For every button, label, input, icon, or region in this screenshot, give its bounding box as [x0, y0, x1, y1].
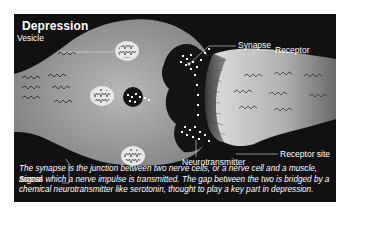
- label-receptor: Receptor: [275, 45, 310, 55]
- postsynaptic-neuron: [205, 49, 336, 147]
- label-synapse: Synapse: [238, 40, 271, 50]
- diagram-caption: The synapse is the junction between two …: [19, 164, 335, 196]
- diagram-title: Depression: [22, 19, 88, 33]
- synapse-diagram-panel: Depression Vesicle Signal Synapse Recept…: [14, 14, 336, 202]
- label-receptor-site: Receptor site: [280, 149, 330, 159]
- label-vesicle: Vesicle: [17, 33, 44, 43]
